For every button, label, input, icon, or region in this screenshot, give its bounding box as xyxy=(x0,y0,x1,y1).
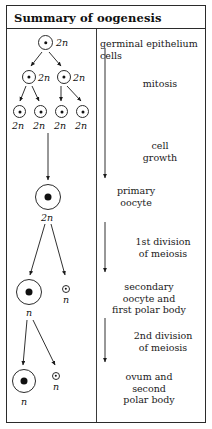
figure-frame xyxy=(6,5,206,423)
germinal-cell-1 xyxy=(38,35,53,50)
label-cell-growth: cell growth xyxy=(115,140,205,163)
label-secondary-oocyte: secondary oocyte and first polar body xyxy=(100,281,198,316)
nucleus xyxy=(27,75,30,78)
oogenesis-figure: Summary of oogenesis 2n 2n 2n 2n 2n 2n 2… xyxy=(0,0,212,429)
secondary-oocyte-label: n xyxy=(26,307,32,318)
germinal-cell-1-label: 2n xyxy=(56,37,68,48)
nucleus xyxy=(18,110,21,113)
label-second-meiosis: 2nd division of meiosis xyxy=(118,330,208,353)
primary-oocyte-label: 2n xyxy=(41,212,53,223)
label-germinal-epithelium: germinal epithelium cells xyxy=(100,38,210,61)
column-divider xyxy=(96,29,97,422)
nucleus xyxy=(45,194,52,201)
germinal-cell-7 xyxy=(76,105,89,118)
germinal-cell-5 xyxy=(34,105,47,118)
primary-oocyte xyxy=(35,184,61,210)
page-title: Summary of oogenesis xyxy=(14,11,162,25)
nucleus xyxy=(60,110,63,113)
germinal-cell-7-label: 2n xyxy=(75,120,87,131)
nucleus xyxy=(21,378,28,385)
title-divider xyxy=(7,28,205,29)
ovum-label: n xyxy=(21,396,27,407)
germinal-cell-2 xyxy=(22,70,36,84)
label-mitosis: mitosis xyxy=(115,78,205,90)
germinal-cell-3-label: 2n xyxy=(73,72,85,83)
germinal-cell-3 xyxy=(57,70,71,84)
label-ovum: ovum and second polar body xyxy=(100,371,198,406)
label-primary-oocyte: primary oocyte xyxy=(100,185,172,208)
nucleus xyxy=(62,75,65,78)
ovum xyxy=(12,369,36,393)
germinal-cell-4 xyxy=(13,105,26,118)
germinal-cell-6-label: 2n xyxy=(54,120,66,131)
secondary-oocyte xyxy=(16,279,42,305)
germinal-cell-5-label: 2n xyxy=(33,120,45,131)
nucleus xyxy=(81,110,84,113)
nucleus xyxy=(39,110,42,113)
nucleus xyxy=(65,288,67,290)
second-polar-body xyxy=(52,372,60,380)
second-polar-body-label: n xyxy=(53,381,59,392)
germinal-cell-4-label: 2n xyxy=(12,120,24,131)
label-first-meiosis: 1st division of meiosis xyxy=(118,236,208,259)
germinal-cell-6 xyxy=(55,105,68,118)
germinal-cell-2-label: 2n xyxy=(38,72,50,83)
first-polar-body-label: n xyxy=(63,294,69,305)
nucleus xyxy=(44,41,48,45)
nucleus xyxy=(55,375,57,377)
first-polar-body xyxy=(62,285,70,293)
nucleus xyxy=(26,289,33,296)
